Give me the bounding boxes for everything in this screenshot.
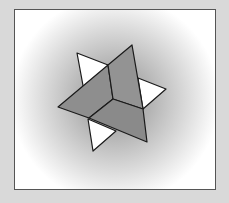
figure-canvas — [0, 0, 229, 203]
interlocking-triangles-figure — [0, 0, 229, 203]
